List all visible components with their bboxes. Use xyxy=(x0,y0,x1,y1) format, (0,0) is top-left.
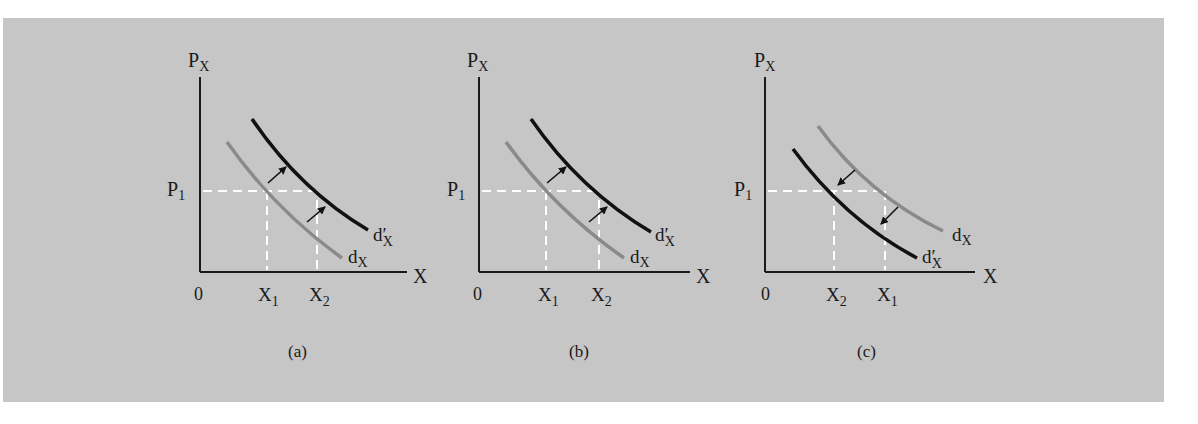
shift-arrow-icon xyxy=(547,167,566,183)
x-tick-right: X xyxy=(309,284,323,305)
svg-text:PX: PX xyxy=(754,49,775,74)
y-axis-label: P xyxy=(754,49,765,71)
svg-text:X1: X1 xyxy=(258,284,279,309)
x-tick-left: X xyxy=(538,284,552,305)
svg-text:X2: X2 xyxy=(309,284,330,309)
origin-label: 0 xyxy=(194,284,203,304)
panel-caption: (b) xyxy=(569,342,589,361)
panel-caption: (a) xyxy=(288,342,307,361)
gray-curve-label: d xyxy=(630,246,640,267)
panel-b: PX X 0 P1 X1 X2 dX d′X (b) xyxy=(447,49,711,361)
shift-arrow-icon xyxy=(881,207,898,224)
demand-curve-shifted xyxy=(252,119,368,230)
svg-text:d′X: d′X xyxy=(655,224,675,249)
shift-arrow-icon xyxy=(268,167,286,183)
x-tick-right: X xyxy=(591,284,605,305)
svg-text:X2: X2 xyxy=(591,284,612,309)
x-axis-label: X xyxy=(696,265,711,287)
svg-text:P1: P1 xyxy=(167,178,185,203)
price-label: P xyxy=(167,178,178,200)
shift-arrow-icon xyxy=(838,170,855,185)
x-tick-left: X xyxy=(258,284,272,305)
demand-curve-original xyxy=(818,126,943,231)
svg-text:dX: dX xyxy=(952,224,972,248)
gray-curve-label: d xyxy=(952,224,962,245)
panel-caption: (c) xyxy=(857,342,876,361)
x-tick-left: X xyxy=(826,284,840,305)
demand-curve-shifted xyxy=(531,119,651,232)
svg-text:d′X: d′X xyxy=(922,246,942,271)
origin-label: 0 xyxy=(761,284,770,304)
price-label: P xyxy=(734,178,745,200)
svg-text:PX: PX xyxy=(188,49,209,74)
svg-text:P1: P1 xyxy=(447,178,465,203)
origin-label: 0 xyxy=(473,284,482,304)
svg-text:X1: X1 xyxy=(538,284,559,309)
price-label: P xyxy=(447,178,458,200)
svg-text:X1: X1 xyxy=(877,284,898,309)
demand-shift-figure: PX X 0 P1 X1 X2 dX d′X (a) PX X 0 P1 X1 … xyxy=(0,0,1198,424)
panel-a: PX X 0 P1 X1 X2 dX d′X (a) xyxy=(167,49,428,361)
svg-text:PX: PX xyxy=(467,49,488,74)
x-tick-right: X xyxy=(877,284,891,305)
svg-text:dX: dX xyxy=(630,246,650,270)
y-axis-label: P xyxy=(467,49,478,71)
y-axis-label: P xyxy=(188,49,199,71)
x-axis-label: X xyxy=(983,265,998,287)
svg-text:dX: dX xyxy=(348,246,368,270)
svg-text:X2: X2 xyxy=(826,284,847,309)
gray-curve-label: d xyxy=(348,246,358,267)
panel-c: PX X 0 P1 X2 X1 dX d′X (c) xyxy=(734,49,998,361)
svg-text:d′X: d′X xyxy=(373,224,393,249)
x-axis-label: X xyxy=(413,265,428,287)
svg-text:P1: P1 xyxy=(734,178,752,203)
